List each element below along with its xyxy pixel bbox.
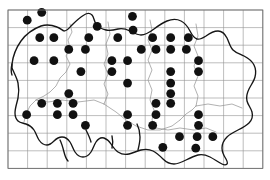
region-outline-path — [11, 64, 12, 75]
presence-dot — [175, 132, 184, 141]
presence-dot — [194, 67, 203, 76]
presence-dot — [123, 121, 132, 130]
presence-dot — [152, 45, 161, 54]
presence-dot — [191, 144, 200, 153]
presence-dot — [208, 132, 217, 141]
presence-dot — [194, 110, 203, 119]
presence-dot — [152, 99, 161, 108]
internal-boundary-path — [194, 24, 198, 106]
presence-dot — [77, 67, 86, 76]
presence-dot — [166, 79, 175, 88]
presence-dot — [53, 99, 62, 108]
internal-boundary-path — [196, 104, 242, 108]
presence-dot — [129, 26, 138, 35]
presence-dot — [81, 121, 90, 130]
internal-boundary-path — [104, 104, 180, 130]
coast-detail-path — [86, 130, 91, 142]
presence-dot — [93, 22, 102, 31]
distribution-map-figure — [0, 0, 270, 180]
presence-dot — [166, 89, 175, 98]
presence-dot — [166, 33, 175, 42]
presence-dot — [107, 67, 116, 76]
region-outline-layer — [11, 14, 255, 165]
presence-dot — [69, 110, 78, 119]
presence-dot — [166, 45, 175, 54]
presence-dot — [53, 110, 62, 119]
presence-dot — [123, 110, 132, 119]
region-outline-path — [12, 14, 256, 165]
coast-detail-path — [112, 136, 113, 148]
presence-dot — [148, 121, 157, 130]
coast-detail-path — [137, 124, 140, 150]
presence-dot — [123, 79, 132, 88]
presence-dot — [22, 110, 31, 119]
presence-dot — [30, 56, 39, 65]
presence-dot — [81, 45, 90, 54]
presence-dot — [49, 33, 58, 42]
presence-dot — [23, 16, 32, 25]
presence-dot — [148, 33, 157, 42]
presence-dot — [137, 45, 146, 54]
presence-dot — [69, 99, 78, 108]
presence-dot — [123, 56, 132, 65]
presence-dot — [113, 33, 122, 42]
presence-dot — [37, 99, 46, 108]
presence-dot — [184, 33, 193, 42]
figure-caption — [8, 170, 262, 180]
internal-boundary-path — [180, 106, 196, 120]
presence-dot — [49, 56, 58, 65]
map-canvas — [0, 0, 270, 180]
presence-dot — [152, 110, 161, 119]
presence-dot — [158, 143, 167, 152]
presence-dot — [194, 56, 203, 65]
presence-dot — [166, 99, 175, 108]
presence-dot — [84, 33, 93, 42]
presence-dot — [193, 132, 202, 141]
presence-dot — [107, 56, 116, 65]
presence-dot — [194, 121, 203, 130]
presence-dot — [182, 45, 191, 54]
presence-dot — [166, 67, 175, 76]
presence-dot — [64, 89, 73, 98]
presence-dot — [64, 45, 73, 54]
presence-dot — [35, 33, 44, 42]
presence-dot — [37, 8, 46, 17]
presence-dot — [128, 12, 137, 21]
